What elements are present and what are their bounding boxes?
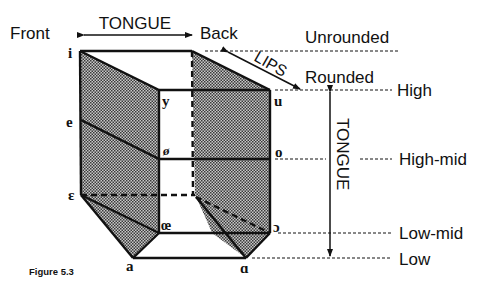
vowel-y: y [162,93,170,109]
tongue-horizontal-label: TONGUE [99,14,171,33]
height-label-high-mid: High-mid [399,150,467,169]
vowel-a: a [126,258,134,274]
figure-caption: Figure 5.3 [29,266,74,277]
vowel-o-slash: ø [162,143,170,158]
height-label-high: High [397,81,432,100]
vowel-oe: œ [161,218,171,233]
height-label-low-mid: Low-mid [399,224,463,243]
vowel-i: i [68,45,72,61]
height-label-low: Low [399,250,431,269]
vowel-alpha: ɑ [240,260,249,276]
lips-label: LIPS [252,48,291,80]
vowel-e: e [66,114,73,130]
vowel-o: o [275,144,283,160]
vowel-u: u [274,93,282,109]
vowel-cube-diagram: Front TONGUE Back Unrounded LIPS Rounded… [0,0,502,290]
front-label: Front [10,24,50,43]
unrounded-label: Unrounded [305,28,389,47]
back-label: Back [200,24,238,43]
vowel-epsilon: ɛ [68,187,75,203]
tongue-vertical-label: TONGUE [333,118,352,190]
vowel-open-o: ɔ [273,219,280,235]
rounded-label: Rounded [305,68,374,87]
